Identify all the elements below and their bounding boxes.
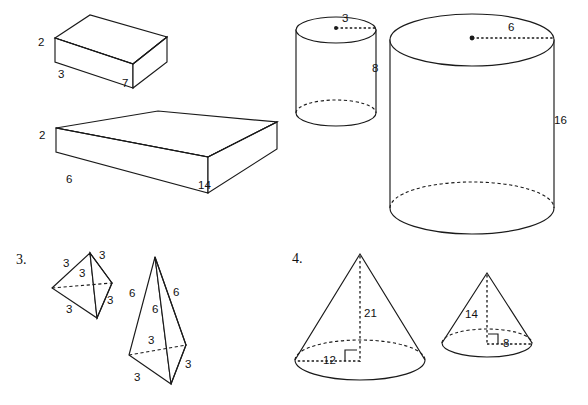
item-4-number: 4.: [292, 251, 303, 266]
small-tetra-edge-label: 3: [66, 303, 72, 315]
small-cone-radius-label: 8: [503, 337, 509, 349]
small-cylinder-center-dot: [334, 26, 338, 30]
geometry-figures-canvas: 2 3 7 2 6 14 3 8: [0, 0, 588, 405]
small-tetra-edge-label: 3: [79, 267, 85, 279]
item-3-number: 3.: [16, 252, 27, 267]
small-tetra-left-face: [52, 253, 97, 318]
large-prism-length-label: 14: [198, 179, 211, 191]
figure-sheet: 2 3 7 2 6 14 3 8: [0, 0, 588, 405]
large-cone-radius-label: 12: [323, 354, 336, 366]
large-tetra-edge-label: 6: [173, 286, 179, 298]
large-tetrahedron: [129, 257, 186, 384]
small-tetra-edge-label: 3: [99, 249, 105, 261]
large-tetra-edge-label: 6: [152, 303, 158, 315]
large-cone-height-label: 21: [364, 307, 377, 319]
large-prism-height-label: 2: [39, 129, 45, 141]
large-prism-depth-label: 6: [66, 173, 72, 185]
small-cylinder-radius-label: 3: [342, 12, 348, 24]
large-tetra-edge-label: 3: [185, 358, 191, 370]
small-cylinder-body: [296, 30, 376, 126]
large-cylinder: [390, 14, 554, 234]
large-cylinder-height-label: 16: [554, 114, 567, 126]
small-tetra-edge-label: 3: [63, 257, 69, 269]
small-cone: [442, 273, 532, 357]
large-tetra-edge-label: 3: [134, 371, 140, 383]
small-rectangular-prism: [55, 15, 167, 88]
large-cylinder-radius-label: 6: [508, 21, 514, 33]
large-rectangular-prism: [56, 111, 277, 193]
small-cylinder: [296, 17, 376, 126]
small-tetrahedron: [52, 253, 112, 318]
small-cone-height-label: 14: [465, 308, 478, 320]
large-cone: [295, 254, 425, 380]
small-prism-height-label: 2: [38, 36, 44, 48]
small-prism-depth-label: 3: [58, 68, 64, 80]
small-cylinder-height-label: 8: [372, 62, 378, 74]
large-tetra-edge-label: 3: [148, 334, 154, 346]
large-cylinder-center-dot: [470, 36, 475, 41]
small-tetra-edge-label: 3: [107, 294, 113, 306]
large-tetra-edge-label: 6: [129, 287, 135, 299]
large-cylinder-body: [390, 40, 554, 234]
small-prism-length-label: 7: [122, 77, 128, 89]
